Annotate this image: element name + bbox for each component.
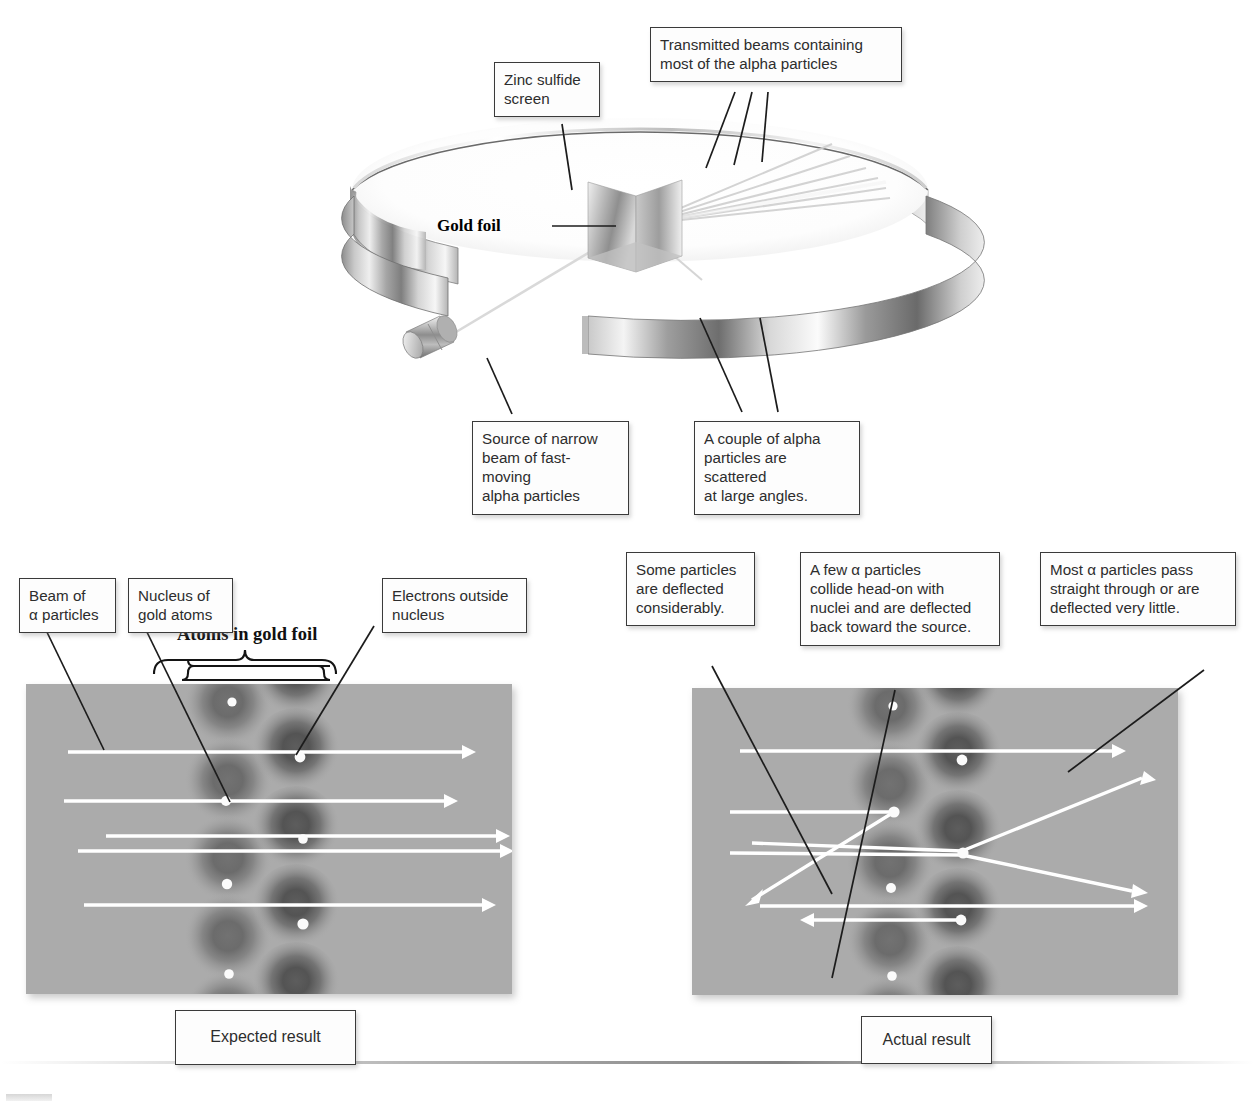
callout-beam-of-alpha-particles: Beam of α particles — [19, 578, 116, 633]
callout-some-particles-deflected: Some particles are deflected considerabl… — [626, 552, 755, 626]
figure-canvas: Zinc sulfide screen Transmitted beams co… — [0, 0, 1254, 1103]
callout-large-angle-scattering: A couple of alpha particles are scattere… — [694, 421, 860, 515]
callout-zinc-sulfide-screen: Zinc sulfide screen — [494, 62, 600, 117]
callout-head-on-collision: A few α particles collide head-on with n… — [800, 552, 1000, 646]
expected-panel-brace — [150, 648, 340, 678]
label-gold-foil: Gold foil — [437, 216, 501, 236]
callout-alpha-source: Source of narrow beam of fast-moving alp… — [472, 421, 629, 515]
callout-transmitted-beams: Transmitted beams containing most of the… — [650, 27, 902, 82]
callout-most-pass-straight: Most α particles pass straight through o… — [1040, 552, 1236, 626]
callout-actual-result[interactable]: Actual result — [861, 1016, 992, 1064]
figure-caption-stub — [6, 1094, 52, 1101]
callout-nucleus-of-gold-atoms: Nucleus of gold atoms — [128, 578, 233, 633]
callout-expected-result[interactable]: Expected result — [175, 1010, 356, 1065]
callout-electrons-outside-nucleus: Electrons outside nucleus — [382, 578, 527, 633]
